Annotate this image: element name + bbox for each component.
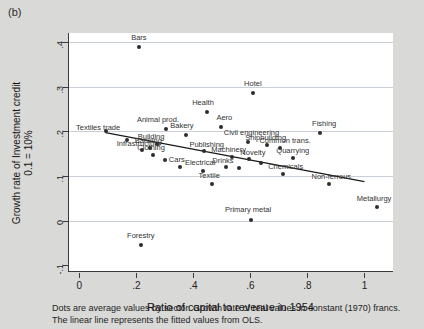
- scatter-point: [291, 156, 295, 160]
- y-axis-tick-label: .1: [55, 175, 65, 201]
- x-axis-tick-mark: [364, 273, 365, 278]
- figure-caption: Dots are average values by sector. Growt…: [52, 303, 412, 326]
- scatter-point-label: Drinks: [212, 156, 233, 165]
- x-axis-tick-label: .2: [121, 280, 151, 291]
- panel-label: (b): [8, 6, 21, 18]
- x-axis-tick-label: 0: [64, 280, 94, 291]
- scatter-point-label: Forestry: [127, 231, 155, 240]
- y-axis-label: Growth rate of Investment credit 0.1 = 1…: [6, 33, 40, 272]
- x-axis-tick-label: 1: [349, 280, 379, 291]
- scatter-point-label: Health: [192, 98, 214, 107]
- caption-line-1: Dots are average values by sector. Growt…: [52, 303, 412, 315]
- scatter-figure: Growth rate of Investment credit 0.1 = 1…: [0, 18, 424, 265]
- y-axis-tick-label: .3: [55, 86, 65, 112]
- scatter-point: [327, 182, 331, 186]
- scatter-point-label: Fishing: [312, 119, 336, 128]
- scatter-point: [151, 153, 155, 157]
- x-axis-tick-mark: [193, 273, 194, 278]
- x-axis-tick-mark: [307, 273, 308, 278]
- y-axis-tick-label: .2: [55, 130, 65, 156]
- scatter-point: [184, 133, 188, 137]
- scatter-point-label: Metallurgy: [357, 194, 392, 203]
- scatter-point-label: Bars: [131, 33, 146, 42]
- y-axis-tick-label: .4: [55, 41, 65, 67]
- x-axis-tick-label: .4: [178, 280, 208, 291]
- scatter-point-label: Common trans.: [259, 136, 310, 145]
- scatter-point-label: Clothing: [137, 143, 165, 152]
- caption-line-2: The linear line represents the fitted va…: [52, 315, 412, 327]
- scatter-point-label: Primary metal: [225, 205, 271, 214]
- scatter-point: [139, 243, 143, 247]
- scatter-point-label: Novelty: [240, 148, 265, 157]
- scatter-point-label: Aero: [216, 113, 232, 122]
- scatter-point: [210, 182, 214, 186]
- y-axis-label-line1: Growth rate of Investment credit: [11, 81, 22, 223]
- scatter-point: [205, 110, 209, 114]
- scatter-point-label: Textiles trade: [76, 123, 120, 132]
- scatter-point: [237, 166, 241, 170]
- scatter-point: [202, 149, 206, 153]
- scatter-point: [224, 165, 228, 169]
- scatter-point-label: Cars: [169, 155, 185, 164]
- x-axis-tick-label: .6: [235, 280, 265, 291]
- y-axis-label-line2: 0.1 = 10%: [23, 130, 34, 175]
- scatter-point: [164, 127, 168, 131]
- x-axis-tick-label: .8: [292, 280, 322, 291]
- scatter-point: [318, 131, 322, 135]
- scatter-point-label: Chemicals: [268, 162, 303, 171]
- scatter-point-label: Textile: [199, 171, 220, 180]
- x-axis-tick-mark: [79, 273, 80, 278]
- scatter-point-label: Hotel: [244, 79, 262, 88]
- plot-area: BarsHotelHealthAeroAnimal prod.Textiles …: [68, 33, 393, 272]
- y-axis-tick-label: 0: [55, 220, 65, 246]
- scatter-point-label: Bakery: [170, 121, 193, 130]
- scatter-point: [247, 157, 251, 161]
- scatter-point: [219, 125, 223, 129]
- scatter-point-label: Quarrying: [276, 146, 309, 155]
- scatter-point-label: Non-ferrous: [311, 172, 351, 181]
- scatter-point-label: Electrical: [185, 158, 215, 167]
- x-axis-tick-mark: [250, 273, 251, 278]
- x-axis-tick-mark: [136, 273, 137, 278]
